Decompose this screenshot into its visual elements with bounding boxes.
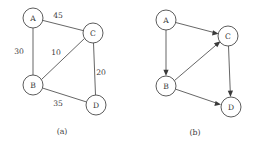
panel-b-caption: (b) [189, 128, 200, 137]
edge-b-to-c [174, 41, 220, 80]
edge-weight-c-d: 20 [96, 68, 106, 77]
node-d-label: D [93, 101, 99, 110]
node-d-label: D [228, 103, 234, 112]
edge-a-to-c-shaft [176, 23, 215, 33]
panel-a-svg: A C B D 45 30 10 20 35 (a) [0, 0, 127, 148]
edge-weight-b-c: 10 [51, 48, 61, 57]
node-b-label: B [30, 81, 36, 90]
edge-weight-b-d: 35 [53, 99, 63, 108]
edge-weight-a-b: 30 [14, 47, 24, 56]
edge-b-d [43, 88, 87, 102]
panel-a-weighted-graph: A C B D 45 30 10 20 35 (a) [0, 0, 127, 148]
edge-a-to-c-arrowhead [212, 30, 219, 35]
node-b-label: B [163, 82, 169, 91]
edge-b-c [41, 38, 84, 79]
panel-a-caption: (a) [57, 127, 68, 136]
edge-b-to-d-arrowhead [214, 101, 221, 106]
panel-b-directed-graph: A C B D (b) [127, 0, 255, 148]
node-a-label: A [162, 16, 169, 25]
node-a-label: A [29, 14, 36, 23]
edge-b-to-d [176, 89, 221, 106]
edge-c-to-d-shaft [229, 46, 231, 93]
edge-b-to-c-shaft [174, 44, 217, 81]
edge-a-c [43, 20, 83, 30]
panel-b-nodes: A C B D [156, 10, 241, 117]
figure-container: A C B D 45 30 10 20 35 (a) [0, 0, 255, 148]
edge-a-to-b-arrowhead [163, 70, 168, 76]
edge-c-to-d-arrowhead [228, 91, 233, 97]
edge-a-to-b [163, 30, 168, 76]
edge-b-to-d-shaft [176, 89, 218, 103]
panel-b-svg: A C B D (b) [127, 0, 255, 148]
node-c-label: C [90, 29, 96, 38]
edge-weight-a-c: 45 [53, 11, 63, 20]
edge-a-to-c [176, 23, 219, 36]
node-c-label: C [225, 32, 231, 41]
panel-a-nodes: A C B D [23, 8, 106, 115]
edge-c-to-d [228, 46, 233, 97]
